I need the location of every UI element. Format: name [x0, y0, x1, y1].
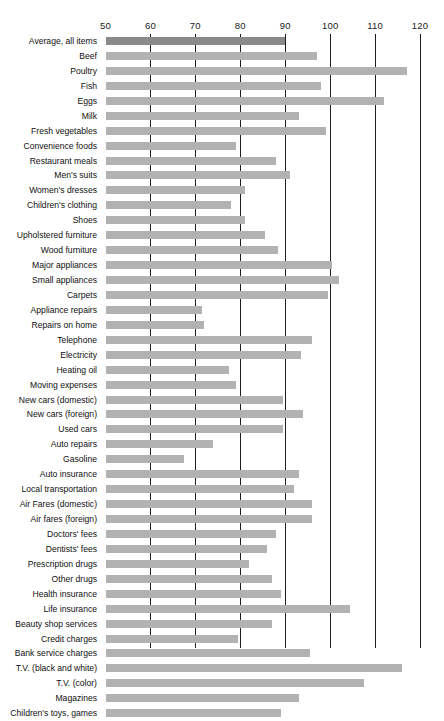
bar-row[interactable]: Credit charges	[0, 632, 444, 647]
bar[interactable]	[106, 157, 277, 165]
bar[interactable]	[106, 381, 236, 389]
bar[interactable]	[106, 440, 214, 448]
bar[interactable]	[106, 590, 281, 598]
bar[interactable]	[106, 261, 333, 269]
bar-row[interactable]: Major appliances	[0, 258, 444, 273]
bar-row[interactable]: Wood furniture	[0, 243, 444, 258]
bar[interactable]	[106, 246, 279, 254]
bar-row[interactable]: Eggs	[0, 94, 444, 109]
bar-row-label: Appliance repairs	[31, 303, 97, 318]
bar[interactable]	[106, 336, 313, 344]
bar[interactable]	[106, 694, 299, 702]
bar[interactable]	[106, 396, 283, 404]
bar[interactable]	[106, 37, 286, 45]
bar[interactable]	[106, 530, 277, 538]
bar[interactable]	[106, 216, 245, 224]
bar-row[interactable]: Life insurance	[0, 602, 444, 617]
bar-row[interactable]: Repairs on home	[0, 318, 444, 333]
bar[interactable]	[106, 455, 185, 463]
bar-row[interactable]: Small appliances	[0, 273, 444, 288]
bar-row[interactable]: Used cars	[0, 422, 444, 437]
bar[interactable]	[106, 425, 283, 433]
bar-row[interactable]: Men's suits	[0, 168, 444, 183]
bar[interactable]	[106, 605, 351, 613]
bar[interactable]	[106, 709, 281, 717]
bar-row[interactable]: Shoes	[0, 213, 444, 228]
bar-row-label: Children's toys, games	[10, 706, 97, 721]
bar-row[interactable]: Convenience foods	[0, 139, 444, 154]
bar[interactable]	[106, 410, 304, 418]
bar-row[interactable]: Children's clothing	[0, 198, 444, 213]
bar[interactable]	[106, 620, 272, 628]
bar-row[interactable]: Gasoline	[0, 452, 444, 467]
bar[interactable]	[106, 171, 290, 179]
bar-row[interactable]: Air fares (foreign)	[0, 512, 444, 527]
bar[interactable]	[106, 321, 205, 329]
bar-row[interactable]: Upholstered furniture	[0, 228, 444, 243]
bar-row[interactable]: Auto insurance	[0, 467, 444, 482]
bar[interactable]	[106, 485, 295, 493]
bar[interactable]	[106, 201, 232, 209]
bar-row[interactable]: Magazines	[0, 691, 444, 706]
bar[interactable]	[106, 52, 317, 60]
bar[interactable]	[106, 366, 230, 374]
bar[interactable]	[106, 545, 268, 553]
bar-row-label: Health insurance	[33, 587, 98, 602]
bar-rows: Average, all itemsBeefPoultryFishEggsMil…	[0, 34, 444, 721]
bar-row[interactable]: Local transportation	[0, 482, 444, 497]
bar-row[interactable]: Women's dresses	[0, 183, 444, 198]
bar-row[interactable]: Air Fares (domestic)	[0, 497, 444, 512]
bar-row[interactable]: T.V. (color)	[0, 676, 444, 691]
bar[interactable]	[106, 231, 265, 239]
bar-row[interactable]: Poultry	[0, 64, 444, 79]
bar[interactable]	[106, 351, 301, 359]
bar-row[interactable]: Bank service charges	[0, 646, 444, 661]
bar-row[interactable]: Electricity	[0, 348, 444, 363]
bar[interactable]	[106, 470, 299, 478]
bar-row[interactable]: New cars (domestic)	[0, 393, 444, 408]
bar[interactable]	[106, 560, 250, 568]
bar[interactable]	[106, 112, 299, 120]
bar-row[interactable]: Prescription drugs	[0, 557, 444, 572]
bar-row[interactable]: Fish	[0, 79, 444, 94]
bar-row-label: Average, all items	[29, 34, 97, 49]
bar-row[interactable]: Auto repairs	[0, 437, 444, 452]
bar[interactable]	[106, 97, 385, 105]
bar[interactable]	[106, 306, 203, 314]
bar-row[interactable]: Milk	[0, 109, 444, 124]
bar-row[interactable]: Doctors' fees	[0, 527, 444, 542]
bar-row-label: Magazines	[55, 691, 97, 706]
bar-row[interactable]: Carpets	[0, 288, 444, 303]
bar[interactable]	[106, 679, 364, 687]
bar[interactable]	[106, 291, 328, 299]
bar-row[interactable]: Children's toys, games	[0, 706, 444, 721]
bar[interactable]	[106, 649, 310, 657]
bar-row[interactable]: Dentists' fees	[0, 542, 444, 557]
bar-row[interactable]: T.V. (black and white)	[0, 661, 444, 676]
bar[interactable]	[106, 664, 403, 672]
bar-row[interactable]: Appliance repairs	[0, 303, 444, 318]
bar[interactable]	[106, 635, 239, 643]
bar-row-label: Repairs on home	[32, 318, 97, 333]
bar-row[interactable]: Moving expenses	[0, 378, 444, 393]
bar[interactable]	[106, 67, 407, 75]
bar-row[interactable]: Heating oil	[0, 363, 444, 378]
bar-row[interactable]: Fresh vegetables	[0, 124, 444, 139]
bar-row[interactable]: Other drugs	[0, 572, 444, 587]
bar[interactable]	[106, 142, 236, 150]
bar[interactable]	[106, 186, 245, 194]
bar[interactable]	[106, 82, 322, 90]
bar[interactable]	[106, 575, 272, 583]
bar-row-label: Used cars	[58, 422, 97, 437]
bar[interactable]	[106, 276, 340, 284]
bar-row[interactable]: Beef	[0, 49, 444, 64]
bar[interactable]	[106, 515, 313, 523]
bar[interactable]	[106, 127, 326, 135]
bar[interactable]	[106, 500, 313, 508]
bar-row[interactable]: Average, all items	[0, 34, 444, 49]
bar-row[interactable]: Restaurant meals	[0, 154, 444, 169]
bar-row[interactable]: Health insurance	[0, 587, 444, 602]
bar-row[interactable]: Beauty shop services	[0, 617, 444, 632]
bar-row[interactable]: New cars (foreign)	[0, 407, 444, 422]
bar-row[interactable]: Telephone	[0, 333, 444, 348]
